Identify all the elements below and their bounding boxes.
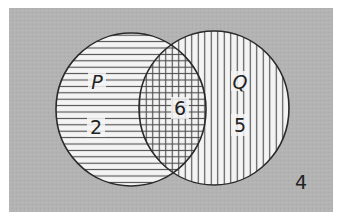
universe-outside-count: 4 bbox=[295, 171, 307, 193]
venn-diagram-svg: P 2 6 Q 5 4 bbox=[0, 0, 338, 216]
intersection-count: 6 bbox=[174, 97, 186, 119]
set-q-only-count: 5 bbox=[234, 114, 246, 136]
set-p-label: P bbox=[91, 71, 103, 93]
set-p-only-count: 2 bbox=[90, 116, 102, 138]
venn-diagram: P 2 6 Q 5 4 bbox=[0, 0, 338, 216]
set-q-label: Q bbox=[233, 71, 248, 93]
